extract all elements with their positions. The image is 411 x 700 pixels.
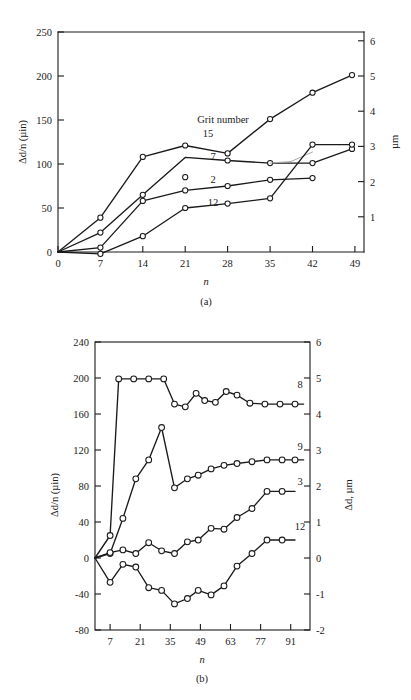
chart-b-y-axis-title-left: Δd/n (µin): [49, 472, 61, 517]
chart-b-ytick-0: 0: [84, 553, 89, 564]
chart-b-series-8-line: [95, 379, 304, 558]
chart-a-right-ticks: [358, 41, 364, 217]
chart-b-ytick-r-2: 2: [316, 481, 321, 492]
chart-a-right-tick-labels: 1 2 3 4 5 6: [370, 36, 376, 223]
chart-a-xtick-0: 0: [55, 258, 60, 269]
chart-b-xtick-91: 91: [285, 636, 296, 647]
chart-b-xtick-63: 63: [225, 636, 236, 647]
chart-a-series-label-12: 12: [208, 197, 219, 208]
chart-a-series-7-line: [58, 149, 352, 252]
chart-a-series-7-markers: [98, 146, 355, 235]
chart-a-svg: 0 50 100 150 200 250 1 2 3 4 5: [0, 0, 411, 320]
chart-b-xtick-77: 77: [255, 636, 266, 647]
chart-a-series-2-markers: [98, 176, 315, 251]
chart-a-y-axis-title-right: µm: [389, 135, 400, 149]
chart-a-ytick-50: 50: [42, 203, 53, 214]
chart-a-caption: (a): [200, 296, 212, 308]
chart-a-left-tick-labels: 0 50 100 150 200 250: [36, 27, 52, 258]
chart-b-ytick-240: 240: [73, 337, 89, 348]
chart-a-ytick-r-1: 1: [370, 212, 375, 223]
chart-b-ytick-r--1: -1: [316, 589, 325, 600]
chart-a-xtick-42: 42: [307, 258, 318, 269]
chart-b-ytick-r--2: -2: [316, 625, 325, 636]
chart-a-series-12-line: [58, 145, 352, 254]
chart-b-frame: [95, 342, 310, 630]
chart-b-series-label-3: 3: [297, 476, 302, 487]
chart-b-xtick-49: 49: [195, 636, 206, 647]
chart-b-caption: (b): [196, 673, 209, 685]
chart-a-ytick-200: 200: [36, 71, 52, 82]
chart-a-left-ticks: [58, 32, 64, 252]
chart-a-ytick-r-4: 4: [370, 106, 376, 117]
chart-a-ytick-r-3: 3: [370, 141, 375, 152]
chart-b-series-label-9: 9: [297, 441, 302, 452]
chart-b-ytick--40: -40: [75, 589, 89, 600]
chart-b-ytick-r-5: 5: [316, 373, 321, 384]
chart-a-series-7: 7: [58, 146, 355, 252]
chart-b-x-axis-title: n: [199, 654, 204, 665]
chart-a-series-label-2: 2: [210, 174, 215, 185]
chart-a-ytick-250: 250: [36, 27, 52, 38]
chart-a-series-label-7: 7: [210, 151, 215, 162]
chart-b-ytick-r-3: 3: [316, 445, 321, 456]
chart-a-x-axis-title: n: [203, 276, 208, 287]
chart-a-legend-title: Grit number: [197, 114, 249, 125]
chart-b-series-label-8: 8: [297, 379, 302, 390]
chart-a-ytick-r-2: 2: [370, 177, 375, 188]
chart-b-ytick--80: -80: [75, 625, 89, 636]
chart-b-xtick-35: 35: [165, 636, 176, 647]
chart-b-series-3-markers: [107, 489, 285, 557]
chart-b-ytick-200: 200: [73, 373, 89, 384]
chart-a-xtick-21: 21: [180, 258, 191, 269]
chart-a-axes: [58, 32, 364, 252]
chart-a-xtick-35: 35: [265, 258, 276, 269]
chart-a-xtick-28: 28: [222, 258, 233, 269]
figure-page: 0 50 100 150 200 250 1 2 3 4 5: [0, 0, 411, 700]
chart-panel-b: -80 -40 0 40 80 120 160 200 240: [0, 330, 411, 700]
chart-b-x-ticks: [110, 624, 291, 630]
chart-a-ytick-100: 100: [36, 159, 52, 170]
chart-panel-a: 0 50 100 150 200 250 1 2 3 4 5: [0, 0, 411, 320]
chart-b-xtick-21: 21: [135, 636, 146, 647]
chart-a-xtick-14: 14: [138, 258, 149, 269]
chart-b-y-axis-title-right: Δd, µm: [343, 479, 354, 510]
chart-a-series-15-markers: [98, 73, 355, 221]
chart-a-ytick-r-6: 6: [370, 36, 375, 47]
chart-a-y-axis-title-left: Δd/n (µin): [17, 119, 29, 164]
chart-b-series-3: 3: [95, 476, 303, 558]
chart-b-ytick-r-1: 1: [316, 517, 321, 528]
chart-b-series-8-markers: [107, 376, 298, 538]
chart-a-xtick-7: 7: [98, 258, 103, 269]
chart-b-ytick-120: 120: [73, 445, 89, 456]
chart-b-ytick-160: 160: [73, 409, 89, 420]
chart-b-right-ticks: [304, 342, 310, 630]
chart-b-ytick-40: 40: [79, 517, 90, 528]
chart-b-ytick-r-4: 4: [316, 409, 322, 420]
chart-a-series-label-15: 15: [203, 128, 214, 139]
chart-b-series-8: 8: [95, 376, 304, 558]
chart-b-ytick-r-6: 6: [316, 337, 321, 348]
chart-b-svg: -80 -40 0 40 80 120 160 200 240: [0, 330, 411, 700]
chart-b-xtick-7: 7: [107, 636, 112, 647]
chart-b-series-12: 12: [95, 521, 305, 607]
chart-a-xtick-49: 49: [350, 258, 361, 269]
chart-a-ytick-r-5: 5: [370, 71, 375, 82]
chart-b-ytick-r-0: 0: [316, 553, 321, 564]
chart-b-series-label-12: 12: [295, 521, 306, 532]
chart-b-left-ticks: [95, 342, 101, 630]
chart-b-x-tick-labels: 7 21 35 49 63 77 91: [107, 636, 295, 647]
chart-a-ytick-150: 150: [36, 115, 52, 126]
chart-b-left-tick-labels: -80 -40 0 40 80 120 160 200 240: [73, 337, 89, 636]
chart-a-ytick-0: 0: [47, 247, 52, 258]
chart-b-ytick-80: 80: [79, 481, 90, 492]
chart-a-series-2: 2: [58, 174, 315, 252]
chart-a-x-tick-labels: 0 7 14 21 28 35 42 49: [55, 258, 360, 269]
chart-b-right-tick-labels: -2 -1 0 1 2 3 4 5 6: [316, 337, 325, 636]
